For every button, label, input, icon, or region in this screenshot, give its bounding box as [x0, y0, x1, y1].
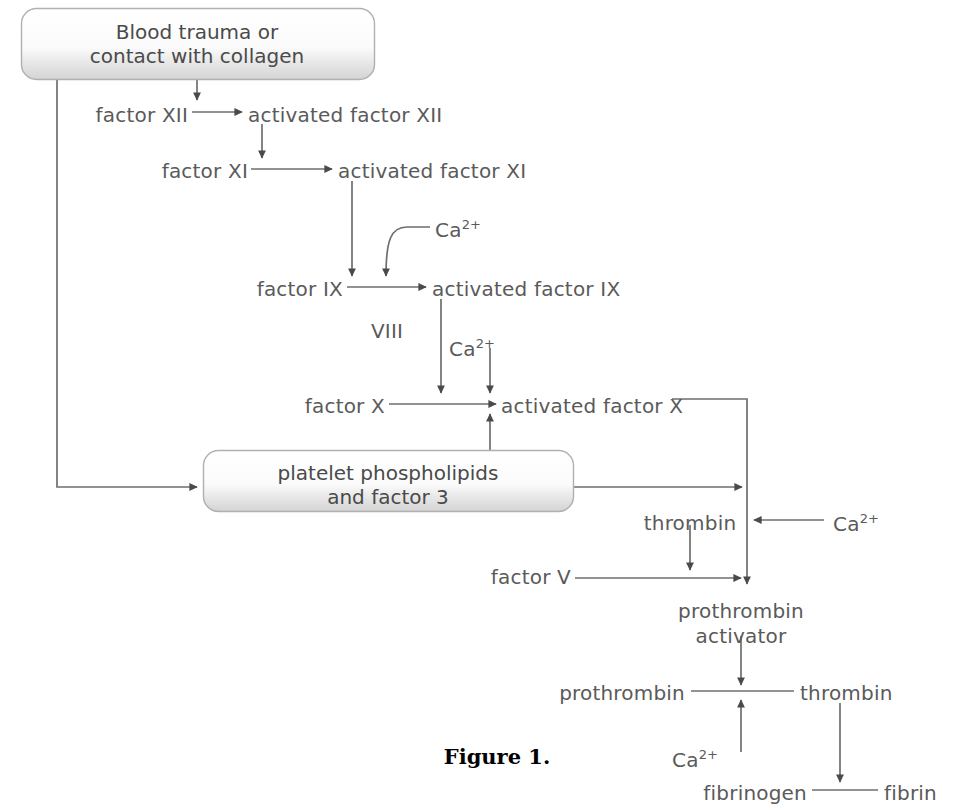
blood-trauma-line-1: Blood trauma or — [90, 20, 304, 44]
figure-caption: Figure 1. — [444, 744, 551, 769]
ca-ion-1-charge: 2+ — [462, 217, 481, 232]
ca-ion-4-label: Ca2+ — [672, 748, 718, 771]
activated-factor-ix-label: activated factor IX — [432, 278, 620, 300]
ca-curve-to-factor-ix-arrow — [386, 227, 430, 276]
factor-x-label: factor X — [305, 395, 385, 417]
factor-viii-label: VIII — [371, 320, 403, 342]
ca-ion-4-charge: 2+ — [699, 747, 718, 762]
ca-ion-3-label: Ca2+ — [833, 512, 879, 535]
thrombin-upper-label: thrombin — [644, 512, 737, 534]
activated-factor-xii-label: activated factor XII — [248, 104, 442, 126]
fibrin-label: fibrin — [884, 782, 937, 804]
fibrinogen-label: fibrinogen — [703, 782, 807, 804]
factor-v-label: factor V — [491, 566, 571, 588]
activated-x-down-to-activator — [672, 399, 747, 584]
blood-trauma-line-2: contact with collagen — [90, 44, 304, 68]
box-left-to-platelet-arrow — [57, 80, 197, 487]
ca-ion-2-charge: 2+ — [476, 336, 495, 351]
prothrombin-activator-line-2: activator — [696, 625, 787, 647]
activated-factor-x-label: activated factor X — [501, 395, 683, 417]
platelet-box-text: platelet phospholipids and factor 3 — [278, 461, 499, 510]
thrombin-lower-label: thrombin — [800, 682, 893, 704]
ca-ion-3-text: Ca — [833, 512, 860, 536]
ca-ion-1-text: Ca — [435, 218, 462, 242]
coagulation-cascade-figure: Blood trauma or contact with collagen pl… — [0, 0, 962, 809]
prothrombin-activator-line-1: prothrombin — [678, 600, 804, 622]
prothrombin-label: prothrombin — [559, 682, 685, 704]
ca-ion-4-text: Ca — [672, 748, 699, 772]
ca-ion-2-text: Ca — [449, 337, 476, 361]
ca-ion-2-label: Ca2+ — [449, 337, 495, 360]
blood-trauma-box-text: Blood trauma or contact with collagen — [90, 20, 304, 69]
factor-ix-label: factor IX — [257, 278, 343, 300]
platelet-line-1: platelet phospholipids — [278, 461, 499, 485]
ca-ion-3-charge: 2+ — [860, 511, 879, 526]
factor-xi-label: factor XI — [162, 160, 248, 182]
factor-xii-label: factor XII — [96, 104, 188, 126]
activated-factor-xi-label: activated factor XI — [338, 160, 526, 182]
ca-ion-1-label: Ca2+ — [435, 218, 481, 241]
platelet-line-2: and factor 3 — [278, 485, 499, 509]
